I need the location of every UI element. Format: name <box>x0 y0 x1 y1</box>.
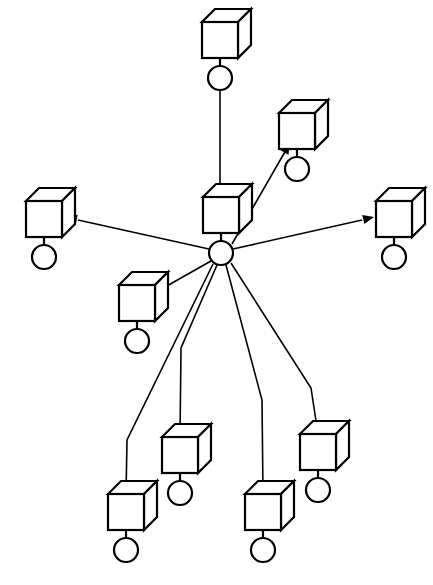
node-circle <box>208 66 232 90</box>
node-circle <box>168 481 192 505</box>
bottom-node-one[interactable] <box>108 481 157 562</box>
node-circle <box>32 245 56 269</box>
node-circle <box>382 245 406 269</box>
edge-hub-to-bottom-three[interactable] <box>226 265 268 503</box>
nodes-layer <box>26 9 425 562</box>
upper-right-node[interactable] <box>279 100 328 181</box>
edge-hub-to-bottom-two[interactable] <box>175 265 217 446</box>
cube-front-face <box>162 437 198 473</box>
cube-front-face <box>300 434 336 470</box>
edge-path <box>231 263 318 434</box>
bottom-node-two[interactable] <box>162 424 211 505</box>
edge-path <box>180 265 217 437</box>
bottom-node-four[interactable] <box>300 421 349 502</box>
lower-left-node[interactable] <box>119 272 168 353</box>
cube-front-face <box>279 113 315 149</box>
edge-path <box>78 220 209 249</box>
diagram-canvas <box>0 0 433 585</box>
edge-hub-to-bottom-four[interactable] <box>231 263 323 443</box>
node-circle <box>209 241 233 265</box>
edge-path <box>233 220 362 249</box>
cube-front-face <box>245 494 281 530</box>
network-diagram <box>0 0 433 585</box>
cube-front-face <box>376 201 412 237</box>
bottom-node-three[interactable] <box>245 481 294 562</box>
node-circle <box>125 329 149 353</box>
cube-front-face <box>202 22 238 58</box>
arrow-head-icon <box>362 213 375 224</box>
cube-front-face <box>108 494 144 530</box>
cube-front-face <box>119 285 155 321</box>
edge-path <box>226 265 263 494</box>
top-node[interactable] <box>202 9 251 90</box>
right-node[interactable] <box>376 188 425 269</box>
node-circle <box>251 538 275 562</box>
edge-hub-to-left[interactable] <box>65 213 209 249</box>
center-hub-node[interactable] <box>203 184 252 265</box>
cube-front-face <box>203 197 239 233</box>
cube-front-face <box>26 201 62 237</box>
node-circle <box>306 478 330 502</box>
left-node[interactable] <box>26 188 75 269</box>
node-circle <box>114 538 138 562</box>
node-circle <box>285 157 309 181</box>
edge-hub-to-right[interactable] <box>233 213 375 249</box>
